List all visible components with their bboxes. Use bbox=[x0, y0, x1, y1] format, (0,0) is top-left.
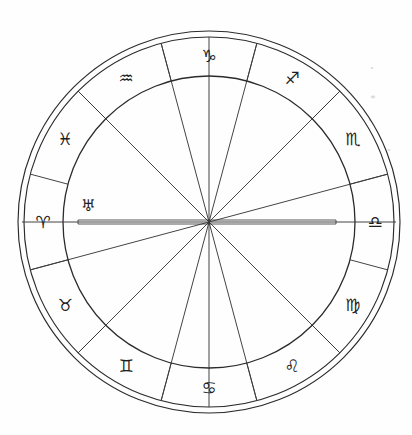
sector-divider-9 bbox=[247, 363, 257, 401]
zodiac-glyph-gemini: ♊ bbox=[118, 356, 133, 376]
zodiac-glyph-pisces: ♓ bbox=[58, 129, 73, 149]
sector-divider-2 bbox=[247, 43, 257, 81]
sector-divider-6 bbox=[30, 260, 68, 270]
planet-glyph-uranus: ♅ bbox=[81, 196, 95, 215]
zodiac-glyph-taurus: ♉ bbox=[58, 295, 73, 315]
zodiac-glyph-virgo: ♍ bbox=[345, 295, 360, 315]
sector-divider-4 bbox=[78, 91, 106, 119]
zodiac-glyph-leo: ♌ bbox=[284, 356, 299, 376]
zodiac-glyph-libra: ♎ bbox=[367, 212, 382, 232]
zodiac-glyph-scorpio: ♏ bbox=[345, 129, 360, 149]
scan-artifacts bbox=[369, 67, 391, 151]
planet-glyph-layer: ♅ bbox=[81, 196, 95, 215]
sector-divider-3 bbox=[161, 43, 171, 81]
zodiac-glyph-cancer: ♋ bbox=[201, 378, 216, 398]
sector-divider-7 bbox=[78, 325, 106, 353]
sector-divider-1 bbox=[312, 91, 340, 119]
sector-divider-5 bbox=[30, 174, 68, 184]
zodiac-glyph-sagittarius: ♐ bbox=[284, 68, 299, 88]
zodiac-glyph-aquarius: ♒ bbox=[118, 68, 133, 88]
astrology-chart-wheel: ♈♉♊♋♌♍♎♏♐♑♒♓ ♅ bbox=[0, 0, 412, 435]
sector-divider-0 bbox=[350, 174, 388, 184]
sector-divider-10 bbox=[312, 325, 340, 353]
zodiac-glyph-aries: ♈ bbox=[35, 212, 50, 232]
zodiac-glyph-capricorn: ♑ bbox=[201, 46, 216, 66]
sector-divider-11 bbox=[350, 260, 388, 270]
chart-wheel-svg: ♈♉♊♋♌♍♎♏♐♑♒♓ ♅ bbox=[0, 0, 412, 435]
sector-divider-8 bbox=[161, 363, 171, 401]
